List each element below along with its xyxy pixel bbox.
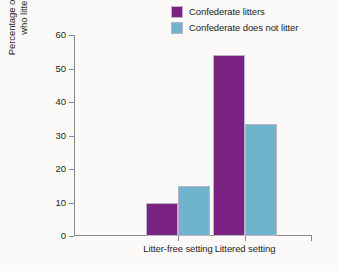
- y-axis-tick-label: 60: [55, 30, 66, 40]
- x-axis-tick: [245, 236, 246, 241]
- legend-item-confederate-does-not-litter: Confederate does not litter: [171, 22, 298, 34]
- legend-swatch-purple: [171, 6, 183, 18]
- y-axis-tick: [69, 136, 74, 137]
- chart-figure: Confederate litters Confederate does not…: [0, 0, 338, 271]
- chart-legend: Confederate litters Confederate does not…: [171, 6, 298, 34]
- y-axis-title: Percentage of people who littered: [6, 0, 29, 66]
- legend-item-confederate-litters: Confederate litters: [171, 6, 298, 18]
- legend-label-confederate-does-not-litter: Confederate does not litter: [189, 23, 298, 33]
- bar: [245, 124, 277, 236]
- y-axis-tick: [69, 203, 74, 204]
- y-axis-tick: [69, 69, 74, 70]
- y-axis-title-line-2: who littered: [18, 0, 30, 66]
- y-axis-tick: [69, 35, 74, 36]
- x-axis-category-label: Littered setting: [215, 243, 276, 254]
- y-axis-tick-label: 10: [55, 198, 66, 208]
- x-axis-tick-end: [311, 236, 312, 241]
- x-axis-tick: [178, 236, 179, 241]
- y-axis-tick-label: 40: [55, 97, 66, 107]
- legend-label-confederate-litters: Confederate litters: [189, 7, 265, 17]
- bar: [146, 203, 178, 237]
- y-axis-line: [74, 35, 75, 236]
- x-axis-category-label: Litter-free setting: [143, 243, 212, 254]
- y-axis-tick: [69, 236, 74, 237]
- legend-swatch-blue: [171, 22, 183, 34]
- y-axis-tick: [69, 102, 74, 103]
- y-axis-tick: [69, 169, 74, 170]
- y-axis-tick-label: 50: [55, 64, 66, 74]
- y-axis-tick-label: 0: [61, 231, 66, 241]
- y-axis-title-line-1: Percentage of people: [6, 0, 18, 66]
- y-axis-tick-label: 30: [55, 131, 66, 141]
- bar: [178, 186, 210, 236]
- y-axis-tick-label: 20: [55, 164, 66, 174]
- plot-area: 0102030405060: [74, 35, 312, 236]
- bar: [213, 55, 245, 236]
